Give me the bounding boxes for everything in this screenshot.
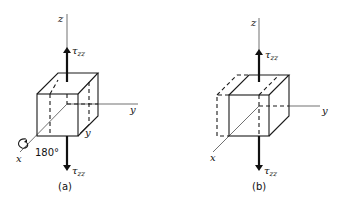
y-axis-label: y — [321, 105, 328, 116]
displaced-face — [217, 95, 229, 136]
rotation-arrowhead-icon — [24, 139, 27, 143]
panel-a: z y x y τzz τzz 180° (a) — [16, 13, 138, 192]
cube-front-face — [37, 94, 78, 136]
rotation-angle-label: 180° — [35, 147, 59, 158]
stress-label-top: τzz — [265, 49, 278, 62]
stress-label-bottom: τzz — [264, 165, 277, 178]
hidden-edge — [259, 75, 279, 95]
x-axis-label: x — [16, 153, 22, 164]
stress-label-top: τzz — [72, 45, 85, 58]
x-axis — [213, 106, 259, 152]
stress-label-bottom: τzz — [72, 165, 85, 178]
z-axis-label: z — [57, 13, 64, 24]
displaced-edge — [217, 75, 237, 95]
cube-right-face — [269, 75, 289, 136]
y-axis-label: y — [129, 104, 136, 115]
panel-a-caption: (a) — [58, 181, 72, 192]
panel-b-caption: (b) — [252, 181, 266, 192]
panel-b: z y x τzz τzz (b) — [210, 17, 328, 192]
z-axis-label: z — [250, 17, 257, 28]
stress-cube-figure: z y x y τzz τzz 180° (a) z y — [0, 0, 345, 202]
x-axis — [20, 104, 67, 152]
inner-y-label: y — [84, 127, 91, 138]
x-axis-label: x — [210, 152, 216, 163]
hidden-edge — [50, 80, 58, 94]
